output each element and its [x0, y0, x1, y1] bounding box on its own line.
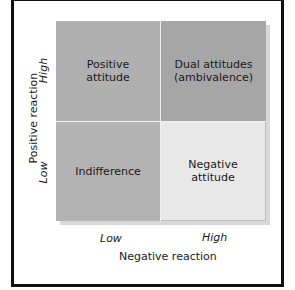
- quadrant-label-line2: (ambivalence): [174, 71, 253, 84]
- quadrant-dual-attitudes: Dual attitudes (ambivalence): [161, 21, 266, 121]
- y-axis-tick-high: High: [37, 56, 50, 86]
- quadrant-negative-attitude: Negative attitude: [161, 122, 266, 221]
- quadrant-label-line2: attitude: [86, 71, 129, 84]
- y-axis-label: Positive reaction: [27, 74, 40, 164]
- quadrant-positive-attitude: Positive attitude: [56, 21, 160, 121]
- attitude-matrix: Positive attitude Dual attitudes (ambiva…: [56, 21, 266, 221]
- horizontal-divider: [56, 121, 266, 122]
- quadrant-label-line1: Positive: [86, 58, 129, 71]
- quadrant-label-line1: Dual attitudes: [174, 58, 253, 71]
- x-axis-tick-low: Low: [100, 232, 122, 245]
- quadrant-label-line2: attitude: [188, 171, 237, 184]
- quadrant-label-line1: Indifference: [75, 165, 140, 178]
- x-axis-label: Negative reaction: [119, 250, 217, 263]
- y-axis-tick-low: Low: [37, 160, 50, 186]
- x-axis-tick-high: High: [202, 231, 227, 244]
- quadrant-label-line1: Negative: [188, 158, 237, 171]
- quadrant-indifference: Indifference: [56, 122, 160, 221]
